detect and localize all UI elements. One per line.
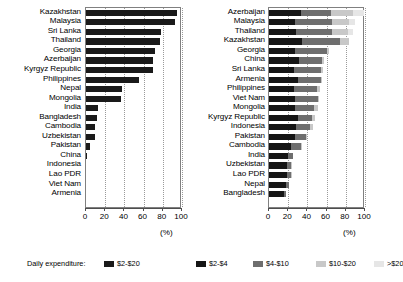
bar-segment — [298, 115, 312, 121]
category-label: Viet Nam — [197, 93, 265, 103]
bar-segment — [86, 124, 95, 130]
axis-tick-label: 20 — [283, 212, 292, 221]
bar — [269, 96, 319, 102]
bar-segment — [269, 105, 295, 111]
left-plot-area — [85, 7, 181, 208]
legend-title: Daily expenditure: — [27, 259, 85, 268]
bar-segment — [86, 67, 153, 73]
bar-segment — [295, 48, 327, 54]
legend-swatch-icon — [253, 261, 263, 267]
bar-segment — [294, 67, 321, 73]
bar — [86, 115, 97, 121]
bar-segment — [298, 77, 321, 83]
axis-line — [268, 208, 364, 209]
bar — [86, 96, 121, 102]
legend-item[interactable]: $2-$20 — [104, 259, 140, 268]
bar-row — [269, 94, 363, 104]
bar — [86, 153, 87, 159]
bar — [86, 143, 90, 149]
bar — [269, 67, 323, 73]
category-label: Uzbekistan — [2, 131, 81, 141]
bar-row — [86, 151, 180, 161]
bar-row — [269, 123, 363, 133]
bar-segment — [321, 77, 322, 83]
left-chart-panel: KazakhstanMalaysiaSri LankaThailandGeorg… — [0, 0, 197, 250]
bar-segment — [314, 105, 318, 111]
bar-row — [86, 103, 180, 113]
bar-segment — [269, 77, 298, 83]
legend-item[interactable]: $2-$4 — [196, 259, 228, 268]
bar-segment — [86, 134, 95, 140]
legend-item[interactable]: $10-$20 — [316, 259, 356, 268]
legend-label: $2-$20 — [117, 259, 140, 268]
bar-segment — [306, 134, 307, 140]
bar-row — [86, 65, 180, 75]
bar — [86, 77, 139, 83]
legend-item[interactable]: >$20 — [374, 259, 403, 268]
bar — [269, 153, 293, 159]
bar-row — [86, 8, 180, 18]
legend-item[interactable]: $4-$10 — [253, 259, 289, 268]
bar-segment — [332, 19, 348, 25]
bar-segment — [86, 77, 139, 83]
category-label: Thailand — [197, 26, 265, 36]
category-label: Georgia — [2, 45, 81, 55]
bar-segment — [86, 115, 97, 121]
axis-tick-label: 40 — [302, 212, 311, 221]
bar-row — [269, 84, 363, 94]
axis-tick-label: 80 — [157, 212, 166, 221]
category-label: Nepal — [2, 83, 81, 93]
bar — [86, 29, 161, 35]
axis-tick-label: 40 — [119, 212, 128, 221]
bar-row — [86, 56, 180, 66]
bar-segment — [291, 162, 292, 168]
bar-row — [86, 132, 180, 142]
bar-segment — [284, 191, 286, 197]
legend-swatch-icon — [196, 261, 206, 267]
axis-tick-label: 100 — [357, 212, 371, 221]
bar — [269, 77, 322, 83]
legend-label: $4-$10 — [266, 259, 289, 268]
legend-swatch-icon — [104, 261, 114, 267]
bar — [86, 105, 98, 111]
category-label: Pakistan — [2, 141, 81, 151]
bar-row — [86, 161, 180, 171]
bar — [86, 134, 95, 140]
bar — [269, 48, 329, 54]
bar — [86, 67, 153, 73]
bar-segment — [269, 182, 286, 188]
right-axis-unit: (%) — [343, 228, 356, 237]
category-label: Sri Lanka — [197, 64, 265, 74]
bar — [269, 57, 324, 63]
category-label: Cambodia — [2, 122, 81, 132]
bar-segment — [269, 19, 295, 25]
bar-segment — [353, 10, 365, 16]
bar — [269, 172, 292, 178]
bar-row — [269, 161, 363, 171]
bar — [86, 57, 153, 63]
bar-row — [86, 94, 180, 104]
category-label: Armenia — [2, 188, 81, 198]
category-label: Kazakhstan — [197, 36, 265, 46]
bar-segment — [269, 153, 288, 159]
category-label: Viet Nam — [2, 179, 81, 189]
category-label: Armenia — [197, 74, 265, 84]
category-label: Indonesia — [2, 160, 81, 170]
legend-label: >$20 — [387, 259, 403, 268]
bar — [269, 10, 364, 16]
bar-segment — [312, 115, 315, 121]
bar-row — [269, 113, 363, 123]
bar-segment — [296, 29, 332, 35]
bar — [86, 38, 160, 44]
category-label: Philippines — [197, 83, 265, 93]
axis-line — [85, 208, 181, 209]
category-label: Cambodia — [197, 141, 265, 151]
category-label: Indonesia — [197, 122, 265, 132]
category-label: Sri Lanka — [2, 26, 81, 36]
bar-segment — [318, 96, 319, 102]
bar-segment — [301, 143, 302, 149]
bar-segment — [269, 124, 296, 130]
legend: Daily expenditure: $2-$20 $2-$4$4-$10$10… — [0, 258, 397, 272]
category-label: Kazakhstan — [2, 7, 81, 17]
